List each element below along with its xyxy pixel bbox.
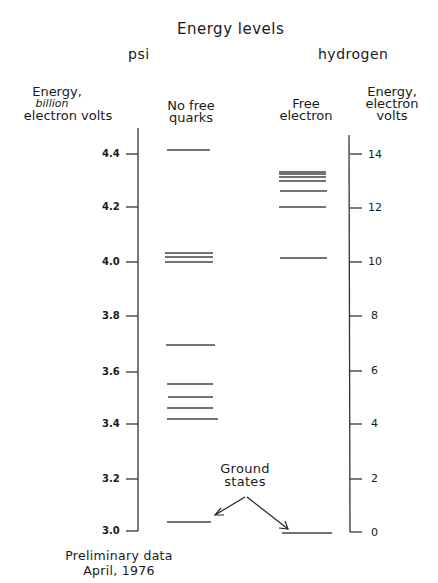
hydrogen-levels: [279, 172, 332, 533]
psi-levels: [165, 150, 218, 522]
left-tick-3.6: 3.6: [102, 366, 120, 377]
ground-states-line2: states: [212, 475, 278, 488]
left-tick-3.4: 3.4: [102, 418, 120, 429]
left-tick-3.8: 3.8: [102, 310, 120, 321]
right-tick-14: 14: [368, 148, 382, 161]
right-tick-0: 0: [371, 526, 378, 539]
ground-states-annotation: Ground states: [212, 462, 278, 488]
left-tick-4.4: 4.4: [102, 148, 120, 159]
right-tick-8: 8: [371, 309, 378, 322]
footnote-line1: Preliminary data: [44, 548, 194, 563]
right-tick-2: 2: [371, 472, 378, 485]
right-tick-4: 4: [371, 417, 378, 430]
right-axis-line: [349, 135, 350, 532]
left-tick-4.0: 4.0: [102, 256, 120, 267]
right-tick-6: 6: [371, 364, 378, 377]
left-tick-3.2: 3.2: [102, 473, 120, 484]
energy-level-plot: [0, 0, 438, 583]
right-tick-12: 12: [368, 201, 382, 214]
right-tick-10: 10: [368, 255, 382, 268]
left-tick-4.2: 4.2: [102, 201, 120, 212]
ground-state-arrows: [215, 497, 288, 529]
footnote-line2: April, 1976: [44, 563, 194, 578]
left-tick-3.0: 3.0: [102, 525, 120, 536]
footnote: Preliminary data April, 1976: [44, 548, 194, 578]
